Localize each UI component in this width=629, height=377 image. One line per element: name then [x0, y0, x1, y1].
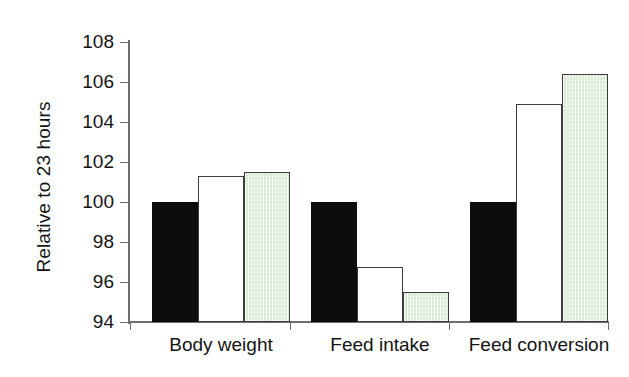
y-tick-108 — [120, 42, 128, 43]
y-tick-94 — [120, 322, 128, 323]
x-tick-3 — [608, 322, 609, 330]
y-tick-104 — [120, 122, 128, 123]
y-tick-98 — [120, 242, 128, 243]
y-tick-label-98: 98 — [48, 232, 114, 251]
bar-feed-conversion-open-outline — [516, 104, 562, 322]
bar-body-weight-solid-black — [152, 202, 198, 322]
bar-feed-conversion-hatched-green — [562, 74, 608, 322]
bar-feed-intake-hatched-green — [403, 292, 449, 322]
bar-body-weight-hatched-green — [244, 172, 290, 322]
y-tick-106 — [120, 82, 128, 83]
bar-feed-conversion-solid-black — [470, 202, 516, 322]
bar-body-weight-open-outline — [198, 176, 244, 322]
y-tick-100 — [120, 202, 128, 203]
y-tick-96 — [120, 282, 128, 283]
x-tick-1 — [290, 322, 291, 330]
y-tick-label-102: 102 — [48, 152, 114, 171]
x-tick-2 — [449, 322, 450, 330]
bar-feed-intake-open-outline — [357, 267, 403, 322]
y-tick-label-100: 100 — [48, 192, 114, 211]
x-category-label-feed-conversion: Feed conversion — [439, 334, 629, 356]
y-tick-label-104: 104 — [48, 112, 114, 131]
bar-chart-figure: Relative to 23 hours 9496981001021041061… — [0, 0, 629, 377]
y-tick-label-94: 94 — [48, 312, 114, 331]
y-tick-label-108: 108 — [48, 32, 114, 51]
y-axis-line — [128, 40, 130, 324]
bar-feed-intake-solid-black — [311, 202, 357, 322]
y-tick-label-106: 106 — [48, 72, 114, 91]
y-tick-label-96: 96 — [48, 272, 114, 291]
x-tick-0 — [130, 322, 131, 330]
y-tick-102 — [120, 162, 128, 163]
